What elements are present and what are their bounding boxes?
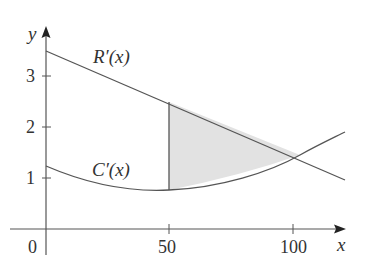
x-tick-label-50: 50 [158, 237, 176, 257]
r-prime-label: R′(x) [92, 46, 130, 68]
c-prime-label: C′(x) [92, 159, 130, 181]
chart: y x 0 50 100 3 2 1 R′(x) C′(x) [0, 0, 365, 278]
shaded-area [169, 102, 300, 190]
y-tick-label-1: 1 [26, 168, 35, 188]
y-axis-label: y [26, 23, 37, 44]
x-axis-label: x [336, 234, 346, 255]
y-tick-label-2: 2 [26, 117, 35, 137]
x-tick-label-100: 100 [280, 237, 307, 257]
y-tick-label-3: 3 [26, 66, 35, 86]
origin-label: 0 [28, 237, 37, 257]
